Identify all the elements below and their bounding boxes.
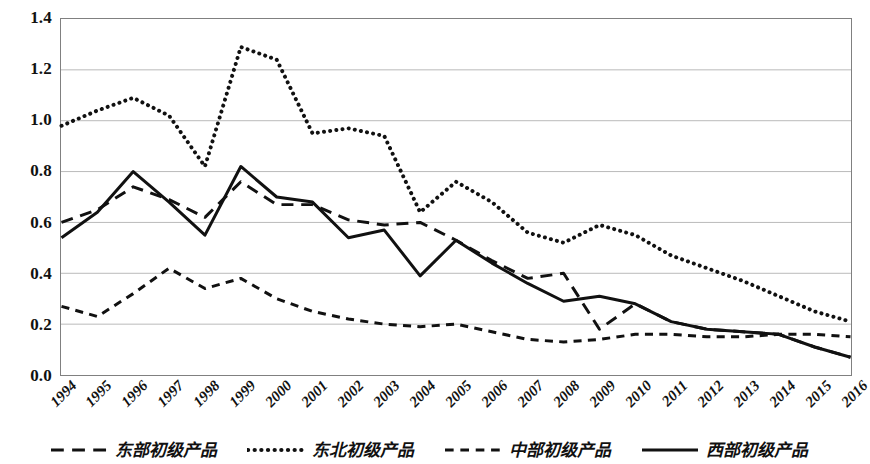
x-tick-label: 2003 [361,378,403,420]
x-tick-label: 1999 [217,378,259,420]
series-line [61,166,850,357]
legend-swatch-dashed-icon [50,443,108,457]
y-tick-label: 0.2 [0,316,52,333]
x-tick-label: 1995 [73,378,115,420]
x-tick-label: 2001 [289,378,331,420]
y-tick-label: 0.8 [0,162,52,179]
legend-label: 东部初级产品 [115,442,217,459]
x-axis: 1994199519961997199819992000200120022003… [60,378,852,434]
x-tick-label: 2000 [253,378,295,420]
legend-label: 东北初级产品 [312,442,414,459]
series-lines [61,19,851,375]
legend-item[interactable]: 中部初级产品 [444,442,611,459]
x-tick-label: 2011 [649,378,691,420]
legend-item[interactable]: 西部初级产品 [641,442,808,459]
x-tick-label: 2005 [433,378,475,420]
x-tick-label: 1998 [181,378,223,420]
x-tick-label: 2006 [469,378,511,420]
x-tick-label: 2007 [505,378,547,420]
x-tick-label: 1997 [145,378,187,420]
x-tick-label: 2008 [541,378,583,420]
y-axis: 0.00.20.40.60.81.01.21.4 [0,0,52,394]
x-tick-label: 2012 [685,378,727,420]
legend-swatch-solid-icon [641,443,699,457]
legend-swatch-dotted-icon [247,443,305,457]
plot-area [60,18,852,376]
legend-item[interactable]: 东部初级产品 [50,442,217,459]
y-tick-label: 1.0 [0,111,52,128]
x-tick-label: 1996 [109,378,151,420]
legend-label: 中部初级产品 [509,442,611,459]
y-tick-label: 0.6 [0,214,52,231]
x-tick-label: 2004 [397,378,439,420]
x-tick-label: 2015 [792,378,834,420]
y-tick-label: 1.4 [0,9,52,26]
legend-label: 西部初级产品 [706,442,808,459]
series-line [61,47,850,322]
y-tick-label: 0.4 [0,265,52,282]
x-tick-label: 2009 [577,378,619,420]
x-tick-label: 2013 [721,378,763,420]
x-tick-label: 2014 [756,378,798,420]
legend-item[interactable]: 东北初级产品 [247,442,414,459]
legend-swatch-shortdash-icon [444,443,502,457]
x-tick-label: 2016 [828,378,870,420]
y-tick-label: 1.2 [0,60,52,77]
x-tick-label: 2002 [325,378,367,420]
y-tick-label: 0.0 [0,367,52,384]
chart-legend: 东部初级产品东北初级产品中部初级产品西部初级产品 [0,436,858,464]
x-tick-label: 2010 [613,378,655,420]
